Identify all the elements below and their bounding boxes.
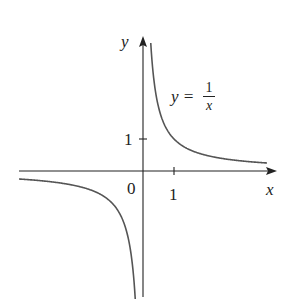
x-axis-label: x (266, 181, 274, 198)
curve-negative-branch (19, 179, 135, 299)
y-tick-label: 1 (124, 131, 133, 148)
function-label-denominator: x (203, 98, 215, 114)
fraction-bar (203, 96, 215, 97)
plot-area (0, 0, 299, 307)
y-axis-label: y (121, 33, 129, 50)
function-label-numerator: 1 (203, 80, 215, 96)
origin-label: 0 (127, 180, 136, 197)
function-label-lhs: y = (171, 88, 194, 105)
x-tick-label: 1 (169, 186, 178, 203)
chart: y x 0 1 1 y = 1 x (0, 0, 299, 307)
